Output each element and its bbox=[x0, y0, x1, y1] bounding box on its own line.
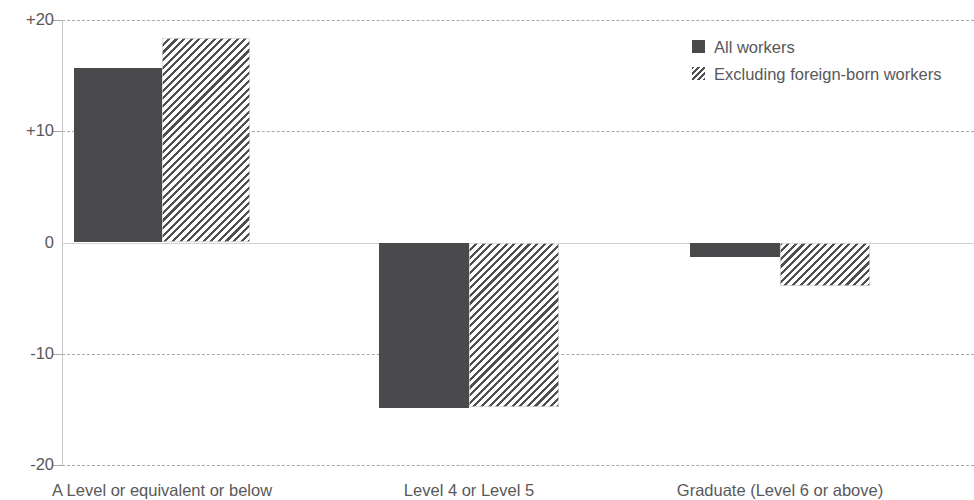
y-axis-tick-label: -10 bbox=[8, 345, 54, 362]
y-axis-line bbox=[62, 20, 63, 465]
bar bbox=[162, 38, 250, 243]
gridline bbox=[62, 20, 974, 21]
bar bbox=[379, 243, 469, 409]
hatched-swatch-icon bbox=[692, 67, 705, 80]
solid-swatch-icon bbox=[692, 40, 705, 53]
bar bbox=[690, 243, 780, 257]
bar-chart: +20+100-10-20 A Level or equivalent or b… bbox=[0, 0, 974, 500]
x-axis-category-label: Graduate (Level 6 or above) bbox=[580, 480, 974, 500]
legend-label: Excluding foreign-born workers bbox=[714, 65, 941, 83]
y-axis-tick-label: +20 bbox=[8, 11, 54, 28]
y-axis-tick-label: 0 bbox=[8, 234, 54, 251]
bar bbox=[780, 243, 870, 286]
chart-legend: All workers Excluding foreign-born worke… bbox=[692, 33, 941, 87]
gridline bbox=[62, 465, 974, 466]
legend-label: All workers bbox=[714, 38, 795, 56]
legend-item-all-workers[interactable]: All workers bbox=[692, 33, 941, 60]
legend-item-excluding-foreign-born-workers[interactable]: Excluding foreign-born workers bbox=[692, 60, 941, 87]
bar bbox=[469, 243, 559, 408]
y-axis-tick-label: -20 bbox=[8, 456, 54, 473]
y-axis-tick-label: +10 bbox=[8, 122, 54, 139]
bar bbox=[74, 68, 162, 243]
